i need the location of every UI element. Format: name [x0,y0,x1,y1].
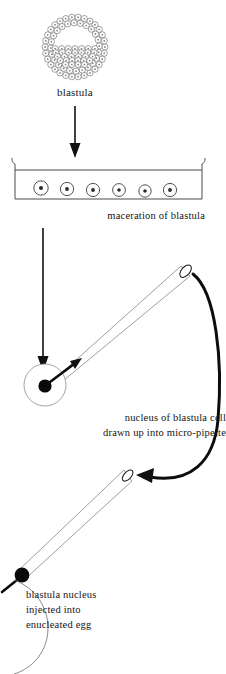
blastula-cell-nucleus [77,76,79,78]
blastula-cell-nucleus [95,57,97,59]
blastula-cell-nucleus [104,46,106,48]
blastula-cell-nucleus [63,67,65,69]
blastula-cell-nucleus [47,58,49,60]
blastula-cell-nucleus [55,52,57,54]
blastula-cell-nucleus [61,48,63,50]
blastula-cell-nucleus [74,48,76,50]
nucleus-caption-line-2: drawn up into micro-pipette [103,427,226,438]
blastula-cell-nucleus [94,24,96,26]
arrow-blastula-to-dish [70,106,81,158]
blastula-cell-nucleus [65,64,67,66]
micro-pipette-aspirating [48,263,194,390]
blastula-cell-nucleus [81,69,83,71]
blastula-cell-nucleus [80,52,82,54]
blastula-cell-nucleus [71,16,73,18]
blastula-cell-nucleus [45,40,47,42]
blastula-cell-nucleus [101,58,103,60]
blastula-cell-nucleus [64,56,66,58]
blastula-cell-nucleus [54,68,56,70]
blastula-cell-nucleus [85,25,87,27]
blastula-cell-nucleus [71,76,73,78]
blastula-cell-nucleus [54,48,56,50]
blastula-cell-nucleus [77,16,79,18]
blastula-cell-nucleus [75,70,77,72]
blastula-cell-nucleus [68,52,70,54]
dissociated-cell [60,182,73,195]
blastula-cell-nucleus [45,52,47,54]
blastula-cell-nucleus [54,24,56,26]
blastula-cell-nucleus [97,39,99,41]
injection-caption-line-1: blastula nucleus [26,589,97,600]
blastula-cell-nucleus [98,29,100,31]
injection-caption-line-3: enucleated egg [26,619,92,630]
blastula-cell-nucleus [71,64,73,66]
blastula-cell-nucleus [77,60,79,62]
dissociated-cell [163,183,176,196]
dissociated-cells [34,181,177,197]
blastula-cell-nucleus [71,56,73,58]
isolated-blastula-cell [24,358,82,406]
blastula-cell-cluster [42,14,108,80]
blastula-cell-nucleus [87,66,89,68]
blastula-cell-nucleus [89,72,91,74]
blastula-cell-nucleus [98,64,100,66]
nucleus-caption-line-1: nucleus of blastula cell [125,412,226,423]
blastula-cell-nucleus [79,22,81,24]
blastula-figure [42,14,108,80]
blastula-cell-nucleus [59,72,61,74]
nuclear-transplantation-diagram: blastula [0,0,226,674]
blastula-cell-nucleus [87,48,89,50]
blastula-cell-nucleus [83,75,85,77]
blastula-cell-nucleus [59,60,61,62]
diagram-canvas: blastula [0,0,226,674]
micro-pipette-injecting [2,468,135,592]
blastula-cell-nucleus [65,18,67,20]
blastula-cell-nucleus [69,70,71,72]
maceration-label: maceration of blastula [107,210,205,221]
blastula-cell-nucleus [67,48,69,50]
blastula-cell-nucleus [44,46,46,48]
blastula-cell-nucleus [57,56,59,58]
dissociated-cell [34,181,48,195]
blastula-cell-nucleus [103,40,105,42]
blastula-cell-nucleus [98,51,100,53]
dissociated-cell [139,185,151,197]
blastula-cell-nucleus [84,64,86,66]
blastula-cell-nucleus [53,35,55,37]
dissociated-cell [113,184,126,197]
blastula-cell-nucleus [58,64,60,66]
blastula-cell-nucleus [50,41,52,43]
blastula-cell-nucleus [85,56,87,58]
blastula-cell-nucleus [71,60,73,62]
blastula-cell-nucleus [59,20,61,22]
blastula-cell-nucleus [50,29,52,31]
blastula-cell-nucleus [83,60,85,62]
blastula-cell-nucleus [98,45,100,47]
blastula-cell-nucleus [61,26,63,28]
dissociated-cell [86,183,99,196]
blastula-cell-nucleus [54,59,56,61]
blastula-cell-nucleus [89,20,91,22]
blastula-label: blastula [57,86,93,98]
blastula-cell-nucleus [87,52,89,54]
blastula-cell-nucleus [83,18,85,20]
blastula-cell-nucleus [103,52,105,54]
blastula-cell-nucleus [90,28,92,30]
blastula-cell-nucleus [74,52,76,54]
blastula-cell-nucleus [73,22,75,24]
blastula-cell-nucleus [94,68,96,70]
blastula-cell-nucleus [77,64,79,66]
blastula-cell-nucleus [51,53,53,55]
blastula-cell-nucleus [67,23,69,25]
blastula-cell-nucleus [65,60,67,62]
injection-caption-line-2: injected into [26,604,81,615]
blastula-cell-nucleus [61,52,63,54]
blastula-cell-nucleus [65,75,67,77]
blastula-cell-nucleus [47,34,49,36]
blastula-cell-nucleus [92,56,94,58]
blastula-cell-nucleus [56,30,58,32]
blastula-cell-nucleus [89,60,91,62]
blastula-cell-nucleus [81,48,83,50]
maceration-dish [12,158,205,199]
blastula-cell-nucleus [101,34,103,36]
